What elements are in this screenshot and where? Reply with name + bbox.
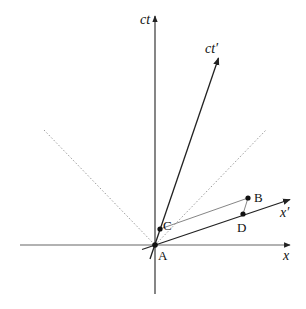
light-cone-left	[44, 130, 155, 245]
ct-axis-label: ct	[140, 12, 151, 27]
point-c-label: C	[163, 218, 172, 233]
spacetime-diagram: ct x ct′ x′ A B C D	[0, 0, 306, 309]
x-prime-axis-label: x′	[279, 205, 290, 220]
point-b-label: B	[254, 190, 263, 205]
x-axis-label: x	[282, 248, 290, 263]
point-b	[245, 195, 250, 200]
point-a-label: A	[158, 248, 168, 263]
point-c	[157, 226, 162, 231]
point-d-label: D	[237, 220, 246, 235]
point-a	[152, 242, 158, 248]
point-d	[240, 211, 245, 216]
segment-c-b	[160, 198, 248, 229]
ct-prime-axis-label: ct′	[205, 41, 219, 56]
